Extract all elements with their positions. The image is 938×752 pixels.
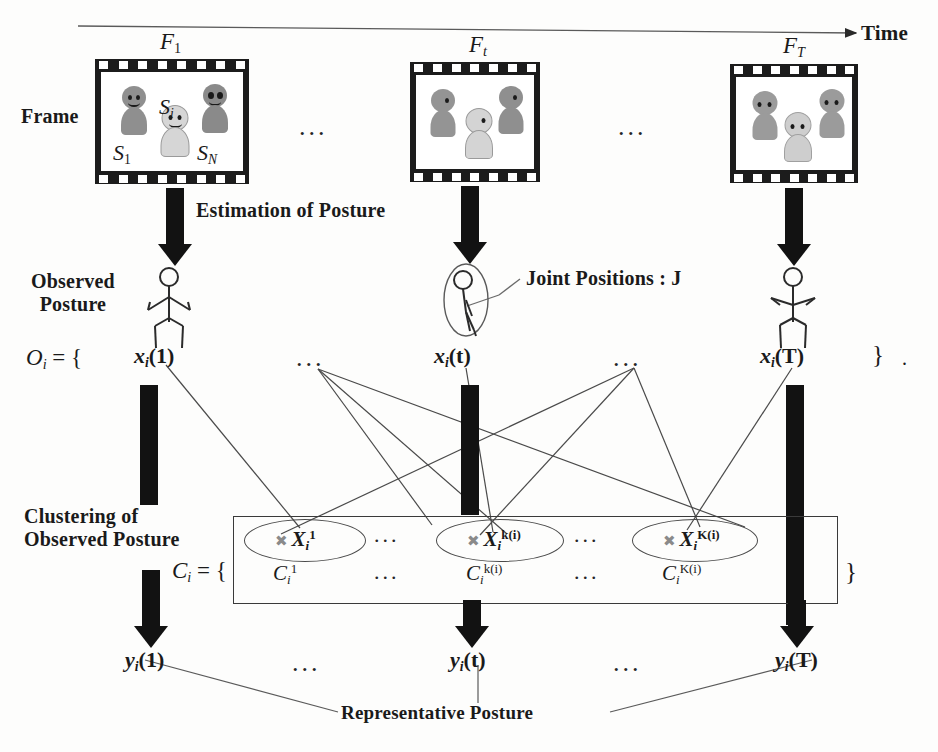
representative-posture-label: Representative Posture: [341, 702, 533, 724]
ellipsis-cluster-mid-top: ...: [374, 522, 400, 548]
observed-x-1: xi(1): [134, 343, 174, 370]
clustering-bar-1: [140, 385, 158, 505]
cluster-k-centroid: ✖ Xik(i): [467, 527, 521, 554]
clustering-line1: Clustering of: [24, 505, 180, 528]
cluster-1-centroid: ✖ Xi1: [275, 527, 316, 554]
representative-arrow-T: [777, 600, 817, 648]
x-marker-icon: ✖: [467, 532, 480, 550]
cluster-K-centroid: ✖ XiK(i): [663, 527, 720, 554]
ellipsis-observed-right: ...: [613, 343, 642, 373]
representative-y-T: yi(T): [775, 647, 818, 674]
observed-set-prefix: Oi = {: [26, 345, 82, 372]
observed-set-period: .: [902, 347, 907, 370]
observed-x-t: xi(t): [434, 343, 471, 370]
joint-positions-label: Joint Positions : J: [526, 267, 681, 290]
cluster-set-prefix: Ci = {: [172, 558, 227, 585]
clustering-bar-t: [461, 385, 479, 515]
ellipsis-cluster-right-bot: ...: [574, 559, 600, 585]
x-marker-icon: ✖: [663, 532, 676, 550]
representative-y-1: yi(1): [125, 647, 164, 674]
stick-figure-t: [454, 271, 476, 336]
ellipsis-cluster-right-top: ...: [574, 522, 600, 548]
cluster-k-label: Cik(i): [466, 561, 502, 588]
ellipsis-cluster-mid-bot: ...: [374, 559, 400, 585]
ellipsis-representative-left: ...: [292, 648, 321, 678]
x-marker-icon: ✖: [275, 532, 288, 550]
representative-arrow-1: [131, 570, 171, 648]
stick-figure-T: [771, 268, 815, 348]
ellipsis-representative-right: ...: [613, 648, 642, 678]
cluster-K-label: CiK(i): [662, 561, 701, 588]
diagram-canvas: Time Frame F1: [0, 0, 938, 752]
ellipsis-observed-left: ...: [296, 343, 325, 373]
representative-y-t: yi(t): [450, 647, 486, 674]
observed-x-T: xi(T): [760, 343, 804, 370]
clustering-line2: Observed Posture: [24, 528, 180, 551]
representative-arrow-t: [452, 600, 492, 648]
cluster-set-suffix: }: [845, 558, 857, 587]
row-label-clustering: Clustering of Observed Posture: [24, 505, 180, 551]
cluster-1-label: Ci1: [273, 561, 297, 588]
stick-figure-1: [148, 268, 190, 348]
observed-set-suffix: }: [872, 341, 884, 370]
